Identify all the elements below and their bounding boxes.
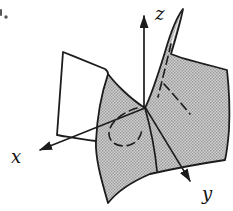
axis-label-y: y — [201, 183, 213, 204]
corner-dot — [4, 15, 7, 18]
figure-canvas: z x y — [0, 0, 233, 211]
axis-label-z: z — [154, 3, 165, 24]
saddle-surface-figure: z x y — [0, 0, 233, 211]
page-corner-mark — [0, 9, 8, 19]
corner-tick — [0, 9, 2, 16]
axis-label-x: x — [11, 146, 21, 167]
surface-front-sheet — [96, 9, 230, 203]
